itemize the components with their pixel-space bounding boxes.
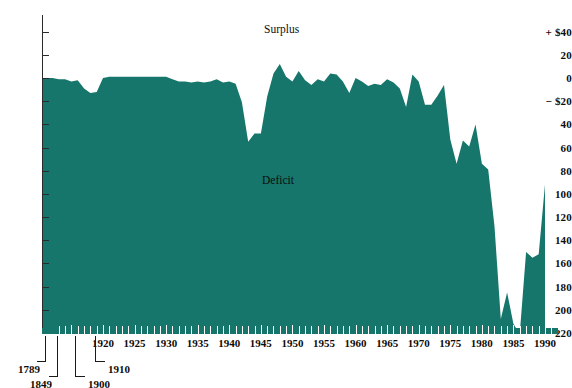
x-tick [141,326,142,334]
x-tick [198,325,199,334]
y-tick [42,263,49,264]
y-tick [42,101,49,102]
x-tick [450,325,451,334]
y-axis-line [42,15,43,333]
x-tick [375,326,376,334]
leader-label: 1910 [108,363,130,375]
x-tick [318,326,319,334]
x-tick [103,325,104,334]
x-tick [273,326,274,334]
x-tick-label: 1930 [155,337,177,349]
x-tick-label: 1935 [187,337,209,349]
y-tick [42,310,49,311]
x-tick [97,326,98,334]
y-tick [42,240,49,241]
x-tick [280,326,281,334]
x-tick-label: 1955 [313,337,335,349]
x-tick [166,325,167,334]
leader-label: 1900 [88,378,110,388]
x-tick [305,326,306,334]
x-tick [431,326,432,334]
x-tick [337,326,338,334]
y-tick-label: 20 [532,50,572,61]
x-tick [444,326,445,334]
y-tick-label: 160 [532,258,572,269]
y-tick-label: − $20 [532,96,572,107]
x-tick [116,326,117,334]
x-tick [482,325,483,334]
x-tick [343,326,344,334]
x-tick [204,326,205,334]
x-tick [387,325,388,334]
x-tick [59,326,60,334]
x-axis-band [42,328,558,334]
y-tick-label: 180 [532,282,572,293]
x-tick [65,326,66,334]
x-tick [507,326,508,334]
x-tick [242,326,243,334]
x-tick [71,325,72,334]
x-tick [381,326,382,334]
surplus-deficit-area-series [42,15,558,333]
x-tick [526,326,527,334]
x-tick [109,326,110,334]
y-tick-label: 0 [532,73,572,84]
x-tick-label: 1990 [534,337,556,349]
x-tick [299,326,300,334]
x-tick [179,326,180,334]
x-tick [84,326,85,334]
x-tick [551,326,552,334]
x-tick [172,326,173,334]
x-tick [488,326,489,334]
y-tick-label: 140 [532,235,572,246]
x-tick [147,326,148,334]
x-tick-label: 1975 [439,337,461,349]
x-tick [311,326,312,334]
x-tick [349,326,350,334]
x-tick [122,326,123,334]
surplus-annotation: Surplus [264,23,299,35]
x-tick [255,326,256,334]
x-tick-label: 1960 [345,337,367,349]
x-tick [261,325,262,334]
x-tick [494,326,495,334]
x-tick [412,326,413,334]
y-tick [42,32,49,33]
x-tick [356,325,357,334]
x-tick [292,325,293,334]
x-tick [330,326,331,334]
x-tick [362,326,363,334]
x-tick-label: 1925 [124,337,146,349]
x-tick-label: 1965 [376,337,398,349]
leader-foot [95,361,105,362]
y-tick [42,194,49,195]
x-tick [400,326,401,334]
y-tick [42,217,49,218]
x-tick [236,326,237,334]
x-tick [217,326,218,334]
area-path [42,64,545,333]
x-tick [191,326,192,334]
y-tick [42,287,49,288]
x-tick [457,326,458,334]
y-tick [42,171,49,172]
deficit-annotation: Deficit [262,174,294,186]
y-tick-label: 40 [532,119,572,130]
y-tick [42,55,49,56]
x-tick [501,326,502,334]
x-tick [324,325,325,334]
x-tick [267,326,268,334]
x-tick [513,325,514,334]
y-tick-label: 100 [532,189,572,200]
leader-line [75,336,76,377]
x-tick-label: 1950 [281,337,303,349]
x-tick [248,326,249,334]
x-tick-label: 1970 [408,337,430,349]
x-tick [539,326,540,334]
chart-root: + $40200− $20406080100120140160180200220… [0,0,572,388]
x-tick [438,326,439,334]
x-tick [90,326,91,334]
x-tick [520,326,521,334]
x-tick [406,326,407,334]
x-tick-label: 1940 [218,337,240,349]
